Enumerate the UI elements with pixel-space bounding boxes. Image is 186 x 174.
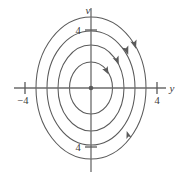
phase-portrait-figure: v y 4 4 −4 4 bbox=[0, 0, 186, 174]
tick-label-y-positive-4: 4 bbox=[154, 95, 160, 106]
tick-label-v-positive-4: 4 bbox=[75, 25, 81, 36]
direction-arrow-orbit-4 bbox=[130, 39, 139, 49]
phase-portrait-canvas: v y 4 4 −4 4 bbox=[0, 0, 186, 174]
tick-label-y-negative-4: −4 bbox=[17, 95, 29, 106]
tick-label-v-negative-4: 4 bbox=[75, 142, 81, 153]
origin-dot bbox=[89, 86, 94, 91]
direction-arrowheads bbox=[102, 39, 139, 138]
horizontal-axis-label: y bbox=[169, 82, 175, 94]
vertical-axis-label: v bbox=[86, 4, 91, 16]
